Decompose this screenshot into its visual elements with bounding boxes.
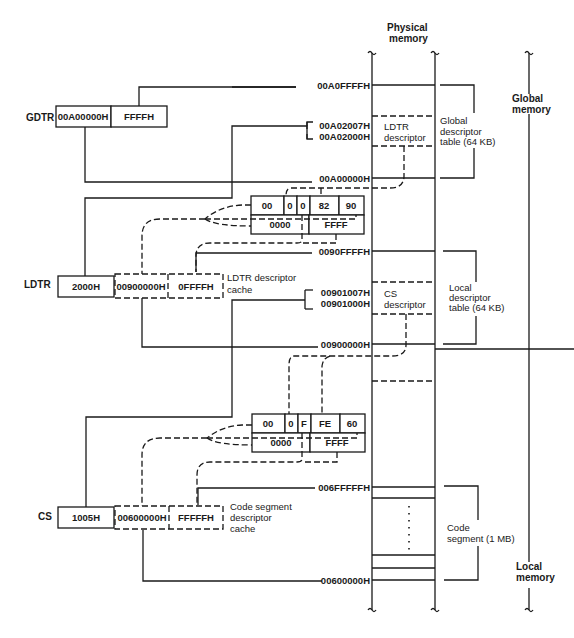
svg-text:memory: memory [389,33,428,44]
svg-text:Physical: Physical [387,22,428,33]
code-segment-region: Code segment (1 MB) [372,486,515,580]
svg-text:segment (1 MB): segment (1 MB) [447,533,515,544]
svg-text:Code: Code [447,522,470,533]
ldtr-descriptor: 00 0 0 82 90 0000 FFFF [251,196,364,234]
svg-text:memory: memory [512,104,551,115]
svg-text:00: 00 [262,200,273,211]
address-labels: 00A0FFFFH 00A02007H 00A02000H 00A00000H … [317,80,370,586]
svg-text:00: 00 [263,418,274,429]
cs-selector-connection [86,290,313,526]
svg-text:0FFFFH: 0FFFFH [178,281,213,292]
cs-register: CS 1005H 00600000H FFFFFH Code segment d… [38,488,322,581]
svg-text:90: 90 [346,200,357,211]
svg-text:FE: FE [319,418,331,429]
svg-text:00600000H: 00600000H [321,575,370,586]
svg-text:00A00000H: 00A00000H [58,111,109,122]
svg-text:00A00000H: 00A00000H [319,173,370,184]
svg-text:00900000H: 00900000H [321,339,370,350]
ldt-region: Local descriptor table (64 KB) CS descri… [372,251,504,381]
svg-text:00A0FFFFH: 00A0FFFFH [317,80,370,91]
svg-text:00901007H: 00901007H [321,287,370,298]
svg-text:0000: 0000 [269,219,290,230]
svg-text:LDTR descriptor: LDTR descriptor [227,272,296,283]
global-memory-label: Global memory [512,93,551,115]
svg-text:1005H: 1005H [72,512,100,523]
svg-text:00600000H: 00600000H [117,512,166,523]
svg-text:table (64 KB): table (64 KB) [449,302,504,313]
svg-text:memory: memory [516,572,555,583]
svg-text:cache: cache [227,284,252,295]
local-memory-label: Local memory [516,561,555,583]
svg-text:GDTR: GDTR [26,112,55,123]
cs-descriptor: 00 0 F FE 60 0000 FFFF [252,414,365,452]
svg-text:Code segment: Code segment [230,501,292,512]
svg-text:0: 0 [288,418,293,429]
svg-text:Global: Global [512,93,543,104]
svg-text:00900000H: 00900000H [116,281,165,292]
physical-memory-title: Physical memory [387,22,428,44]
svg-text:descriptor: descriptor [384,299,426,310]
svg-text:FFFFFH: FFFFFH [178,512,214,523]
svg-text:table (64 KB): table (64 KB) [440,136,495,147]
svg-text:0: 0 [300,200,305,211]
svg-text:0090FFFFH: 0090FFFFH [319,246,370,257]
gdtr-register: GDTR 00A00000H FFFFH [26,87,312,182]
svg-text:Local: Local [516,561,542,572]
svg-text:LDTR: LDTR [24,279,51,290]
svg-text:2000H: 2000H [72,281,100,292]
svg-text:82: 82 [319,200,330,211]
svg-text:00A02000H: 00A02000H [319,131,370,142]
svg-text:0: 0 [287,200,292,211]
gdt-region: Global descriptor table (64 KB) LDTR des… [372,85,495,178]
svg-text:LDTR: LDTR [384,121,409,132]
svg-text:00901000H: 00901000H [321,298,370,309]
svg-text:FFFF: FFFF [324,219,347,230]
svg-text:Global: Global [440,115,467,126]
svg-text:CS: CS [38,511,52,522]
svg-text:00A02007H: 00A02007H [319,120,370,131]
svg-text:F: F [301,418,307,429]
svg-text:descriptor: descriptor [384,132,426,143]
descriptor-diagram: Physical memory Global memory Local memo… [0,0,574,638]
svg-text:006FFFFFH: 006FFFFFH [318,482,370,493]
svg-text:descriptor: descriptor [230,512,272,523]
svg-text:cache: cache [230,523,255,534]
svg-text:FFFFH: FFFFH [124,111,154,122]
svg-text:CS: CS [384,288,397,299]
svg-text:60: 60 [347,418,358,429]
